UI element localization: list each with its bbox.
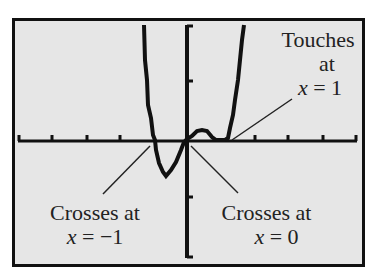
pointer-crosses-neg1 [103, 146, 150, 194]
annotation-touches-var: x [298, 75, 308, 100]
annotation-crosses-0-eq: = 0 [270, 224, 299, 249]
annotation-touches-line1: Touches [272, 28, 364, 52]
annotation-crosses-0-var: x [254, 224, 264, 249]
pointer-touches [232, 99, 292, 140]
annotation-touches-eq: = 1 [313, 75, 342, 100]
annotation-touches-line2: at [272, 52, 364, 76]
diagram: Touches at x = 1 Crosses at x = −1 Cross… [0, 0, 374, 279]
annotation-crosses-neg1-eq: = −1 [82, 224, 123, 249]
annotation-crosses-neg1-var: x [67, 224, 77, 249]
polynomial-curve [144, 25, 244, 176]
annotation-crosses-0: Crosses at x = 0 [199, 201, 334, 249]
annotation-crosses-0-line1: Crosses at [199, 201, 334, 225]
pointer-crosses-0 [191, 146, 238, 193]
annotation-crosses-neg1-line1: Crosses at [30, 201, 160, 225]
annotation-crosses-neg1: Crosses at x = −1 [30, 201, 160, 249]
annotation-touches: Touches at x = 1 [272, 28, 364, 100]
